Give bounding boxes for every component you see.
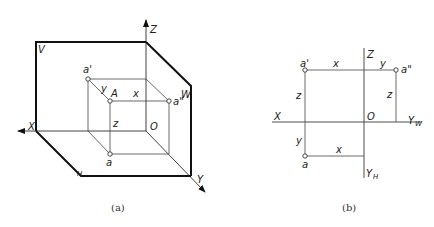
caption-b: (b): [342, 202, 356, 213]
label-x-axis: X: [273, 111, 282, 122]
label-dim-z-right: z: [386, 89, 393, 100]
label-yh-sub: H: [373, 173, 379, 181]
label-x-axis: X: [27, 121, 36, 132]
label-dim-x: x: [132, 88, 139, 99]
label-yw-axis: Y: [408, 115, 415, 126]
v-plane-outline: [36, 42, 146, 131]
label-a: a: [302, 159, 308, 170]
label-a: a: [106, 157, 112, 168]
label-a-prime: a': [300, 58, 309, 69]
label-origin: O: [150, 121, 158, 132]
label-dim-z-left: z: [295, 90, 302, 101]
point-a-double-prime: [394, 68, 398, 72]
point-a: [108, 152, 112, 156]
label-dim-y: y: [100, 83, 108, 94]
label-a-double-prime: a": [401, 64, 412, 75]
label-dim-y-left: y: [295, 135, 303, 146]
label-origin: O: [367, 111, 375, 122]
label-z-axis: Z: [149, 24, 158, 35]
point-a-double-prime: [167, 99, 171, 103]
label-h-plane: H: [77, 170, 83, 178]
point-a-prime: [86, 77, 90, 81]
point-a: [303, 154, 307, 158]
label-dim-y-top: y: [379, 58, 387, 69]
label-v-plane: V: [38, 44, 46, 55]
projection-diagram: V W H Z X Y O a' A a" a y x z (a) Z X O …: [0, 0, 434, 227]
label-dim-x-bottom: x: [335, 144, 342, 155]
label-y-axis: Y: [197, 174, 204, 185]
label-A: A: [110, 88, 118, 99]
label-yw-sub: W: [415, 120, 423, 128]
caption-a: (a): [111, 202, 125, 213]
figure-b: Z X O Y W Y H a' a" a x y z z y x (b): [272, 48, 423, 213]
label-a-prime: a': [83, 64, 92, 75]
figure-a: V W H Z X Y O a' A a" a y x z (a): [18, 20, 205, 213]
label-yh-axis: Y: [366, 168, 373, 179]
label-a-double-prime: a": [173, 96, 184, 107]
label-z-axis: Z: [366, 49, 375, 60]
label-dim-x-top: x: [332, 58, 339, 69]
label-dim-z: z: [112, 118, 119, 129]
w-plane-outline: [146, 42, 191, 176]
point-A: [108, 99, 112, 103]
